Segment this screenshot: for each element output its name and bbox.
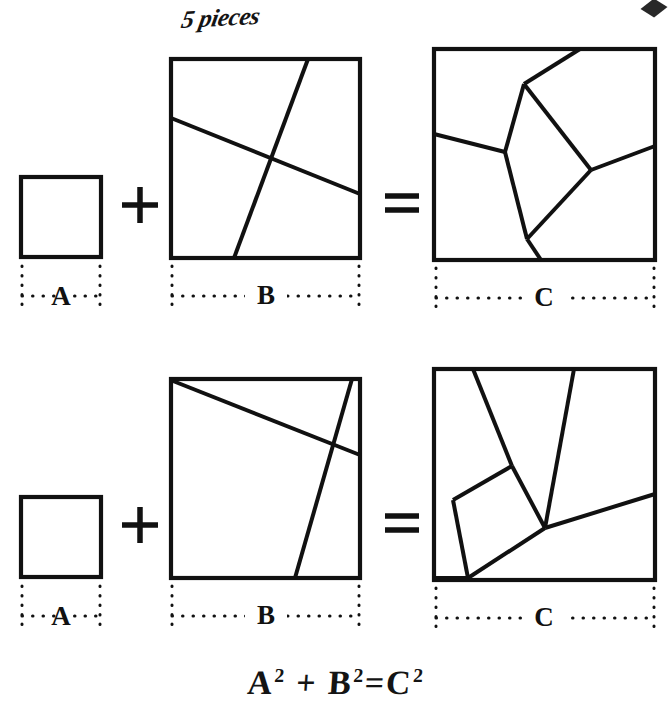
row-2-square-c-cut-upper-left — [473, 369, 512, 466]
row-1-square-a: A — [21, 177, 101, 311]
equation-base-c: C — [385, 664, 414, 701]
row-2-square-c-outline — [434, 369, 655, 580]
row-2-square-a: A — [21, 497, 101, 631]
row-2-group: A B — [21, 369, 655, 632]
row-2-square-b-outline — [171, 379, 360, 578]
row-2-square-c-inner-edge-4 — [453, 500, 468, 578]
row-1-equals-sign — [385, 196, 419, 210]
row-1-square-c-inner-edge-1 — [505, 84, 524, 152]
row-1-label-c: C — [534, 282, 554, 312]
row-2-plus-sign — [122, 507, 158, 543]
row-1-square-c-cut-right-lower — [591, 146, 655, 170]
equation-base-b: B — [327, 664, 354, 701]
equation-plus: + — [295, 664, 319, 701]
row-1-square-c-inner-edge-2 — [434, 134, 505, 152]
row-1-square-c-cut-top — [524, 49, 580, 84]
row-2-square-a-outline — [21, 497, 101, 577]
row-1-square-c-cut-bottom — [527, 239, 541, 260]
row-2-square-c: C — [434, 369, 655, 632]
row-2-square-c-cut-upper-right — [545, 369, 574, 528]
row-1-square-b-outline — [171, 59, 360, 258]
row-1-label-a: A — [51, 281, 71, 311]
equation-exp-a: 2 — [274, 664, 287, 686]
row-2-equals-sign — [385, 516, 419, 530]
row-1-square-c: C — [434, 49, 655, 312]
row-1-square-b-cut-1 — [171, 118, 360, 194]
pieces-caption: 5 pieces — [179, 2, 262, 34]
row-2-square-b: B — [171, 379, 360, 630]
row-1-square-c-cut-right-upper — [524, 84, 591, 170]
pythagorean-dissection-figure: 5 pieces A — [0, 0, 672, 723]
row-2-square-c-inner-edge-3 — [468, 528, 545, 578]
row-1-square-c-cut-inner-right — [527, 170, 591, 239]
equation-base-a: A — [246, 664, 275, 701]
row-2-label-c: C — [534, 602, 554, 632]
equation-exp-c: 2 — [413, 664, 426, 686]
row-1-square-a-outline — [21, 177, 101, 257]
row-1-square-c-inner-edge-3 — [505, 152, 527, 239]
row-1-square-c-outline — [434, 49, 655, 260]
row-2-square-b-cut-2 — [295, 379, 352, 578]
row-1-square-b: B — [171, 59, 360, 310]
row-2-label-b: B — [257, 600, 275, 630]
dissection-canvas: A B — [0, 0, 672, 723]
row-2-square-c-inner-edge-1 — [453, 466, 512, 500]
pythagorean-equation: A2 + B2=C2 — [0, 664, 672, 702]
row-1-label-b: B — [257, 280, 275, 310]
row-1-plus-sign — [122, 187, 158, 223]
row-1-square-b-cut-2 — [234, 59, 308, 258]
row-2-square-c-cut-right — [545, 494, 655, 528]
row-2-label-a: A — [51, 601, 71, 631]
row-1-group: A B — [21, 49, 655, 312]
row-2-square-c-inner-edge-2 — [512, 466, 545, 528]
equation-equals: = — [363, 664, 387, 701]
